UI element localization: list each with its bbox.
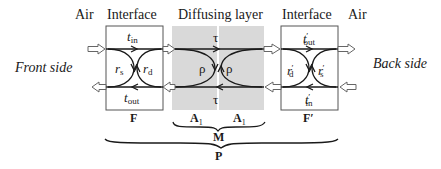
p-label: P	[215, 149, 222, 163]
tau-top-symbol: τ	[213, 31, 218, 44]
t-in-prime-symbol: t′in	[305, 91, 313, 110]
t-out-symbol: tout	[124, 91, 139, 108]
back-input-arrow	[340, 82, 356, 92]
m-label: M	[213, 130, 224, 144]
air-left-label: Air	[75, 8, 94, 22]
rho-right-symbol: ρ	[226, 62, 233, 75]
a1-left-label: A1	[190, 111, 203, 130]
t-in-symbol: tin	[127, 30, 138, 47]
r-s-symbol: rs	[115, 62, 124, 79]
diffusing-layer-label: Diffusing layer	[178, 8, 263, 22]
r-d-symbol: rd	[143, 62, 153, 79]
front-side-label: Front side	[15, 61, 72, 75]
fprime-to-layer-arrow	[265, 82, 281, 92]
bottom-flux-lines	[106, 84, 338, 90]
interface-right-label: Interface	[282, 8, 332, 22]
rho-left-symbol: ρ	[199, 62, 206, 75]
interface-left-label: Interface	[107, 8, 157, 22]
r-s-prime-symbol: r′s	[318, 62, 324, 81]
front-interface-label: F	[130, 111, 137, 125]
back-output-arrow	[338, 44, 355, 54]
t-out-prime-symbol: t′out	[303, 30, 315, 49]
air-right-label: Air	[348, 8, 367, 22]
back-side-label: Back side	[373, 57, 427, 71]
r-d-prime-symbol: r′d	[287, 62, 294, 81]
front-output-arrow	[92, 82, 106, 92]
layer-to-fprime-arrow	[264, 44, 280, 54]
tau-bottom-symbol: τ	[213, 93, 218, 106]
front-input-arrow	[88, 44, 105, 54]
back-interface-label: F′	[303, 111, 314, 125]
a1-right-label: A1	[233, 111, 246, 130]
